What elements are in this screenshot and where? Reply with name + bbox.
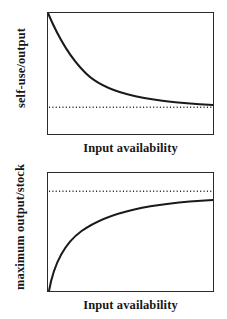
plot-svg-bottom [48, 173, 213, 291]
data-curve-bottom [49, 200, 213, 291]
plot-svg-top [48, 13, 213, 134]
y-axis-label-bottom: maximum output/stock [13, 162, 28, 292]
plot-area-top [47, 12, 214, 135]
chart-maximum-output-stock: maximum output/stock Input availability [0, 160, 227, 319]
x-axis-label-top: Input availability [47, 141, 214, 156]
y-axis-label-top: self-use/output [14, 3, 29, 133]
x-axis-label-bottom: Input availability [47, 298, 214, 313]
data-curve-top [48, 13, 213, 105]
plot-area-bottom [47, 172, 214, 292]
chart-self-use-output: self-use/output Input availability [0, 0, 227, 160]
